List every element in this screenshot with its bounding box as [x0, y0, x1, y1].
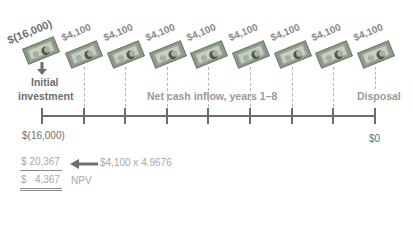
arrow-left-icon	[70, 159, 98, 169]
timeline-tick	[124, 108, 126, 124]
npv-label: NPV	[71, 175, 92, 186]
timeline-tick	[166, 108, 168, 124]
money-bill-icon	[65, 40, 103, 68]
money-bill-icon	[357, 40, 395, 68]
timeline-tick	[207, 108, 209, 124]
npv-value: $ 4,367	[21, 174, 60, 185]
net-cash-inflow-label: Net cash inflow, years 1–8	[147, 90, 277, 102]
timeline-tick	[249, 108, 251, 124]
npv-double-underline-2	[20, 190, 62, 191]
arrow-down-icon	[36, 62, 48, 76]
disposal-value: $0	[369, 133, 380, 144]
money-bill-icon	[274, 40, 312, 68]
initial-value: $(16,000)	[22, 130, 65, 141]
disposal-label: Disposal	[357, 90, 401, 102]
money-bill-icon	[190, 40, 228, 68]
money-bill-icon	[232, 40, 270, 68]
timeline-tick	[41, 108, 43, 124]
timeline-tick	[83, 108, 85, 124]
dashed-connector	[333, 67, 334, 107]
initial-investment-label-line1: Initial	[31, 76, 58, 88]
money-bill-icon	[107, 40, 145, 68]
timeline-tick	[291, 108, 293, 124]
timeline-tick	[374, 108, 376, 124]
money-bill-icon	[22, 36, 60, 64]
timeline-tick	[332, 108, 334, 124]
initial-investment-label-line2: investment	[18, 90, 73, 102]
pv-formula: $4,100 x 4.9676	[100, 157, 172, 168]
money-bill-icon	[149, 40, 187, 68]
npv-double-underline	[20, 188, 62, 189]
dashed-connector	[125, 67, 126, 107]
pv-underline	[20, 170, 62, 171]
pv-value: $ 20,367	[21, 156, 60, 167]
dashed-connector	[292, 67, 293, 107]
money-bill-icon	[315, 40, 353, 68]
dashed-connector	[84, 67, 85, 107]
dashed-connector	[375, 67, 376, 89]
